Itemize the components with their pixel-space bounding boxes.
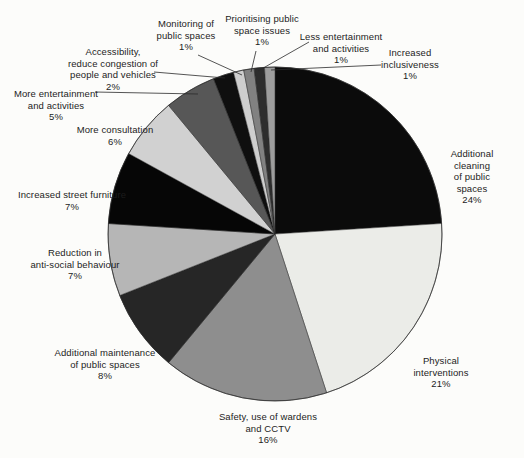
slice-label-monitoring: Monitoring of public spaces 1% [157, 18, 216, 53]
slice-label-prioritising: Prioritising public space issues 1% [225, 13, 299, 48]
pie-chart-figure: Additional cleaning of public spaces 24%… [0, 0, 524, 458]
slice-label-physical-interventions: Physical interventions 21% [400, 355, 483, 390]
slice-label-reduction-antisocial: Reduction in anti-social behaviour 7% [30, 247, 119, 282]
leader-line-monitoring [198, 55, 242, 75]
pie-slice-additional-cleaning [275, 67, 442, 234]
slice-label-increased-inclusiveness: Increased inclusiveness 1% [381, 47, 439, 82]
slice-label-accessibility: Accessibility, reduce congestion of peop… [68, 46, 158, 92]
slice-label-additional-maintenance: Additional maintenance of public spaces … [55, 347, 156, 382]
slice-label-street-furniture: Increased street furniture 7% [18, 189, 126, 212]
slice-label-more-entertainment: More entertainment and activities 5% [14, 88, 98, 123]
slice-label-safety-wardens-cctv: Safety, use of wardens and CCTV 16% [219, 411, 317, 446]
slice-label-additional-cleaning: Additional cleaning of public spaces 24% [446, 148, 498, 206]
slice-label-less-entertainment: Less entertainment and activities 1% [300, 31, 383, 66]
leader-line-accessibility [154, 72, 225, 78]
leader-line-more-entertainment [95, 92, 198, 94]
slice-label-more-consultation: More consultation 6% [77, 124, 154, 147]
